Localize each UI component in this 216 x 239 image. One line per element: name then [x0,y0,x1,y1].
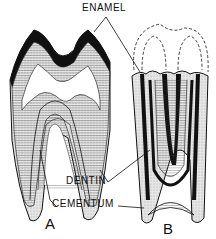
tooth-a [10,30,110,221]
tooth-b [132,24,208,223]
label-tooth-b: B [163,220,174,237]
label-cementum: CEMENTUM [52,198,114,209]
label-dentin: DENTIN [66,175,106,186]
tooth-diagram: ENAMEL DENTIN CEMENTUM A B [0,0,216,239]
label-enamel: ENAMEL [82,2,126,13]
label-tooth-a: A [45,215,56,232]
